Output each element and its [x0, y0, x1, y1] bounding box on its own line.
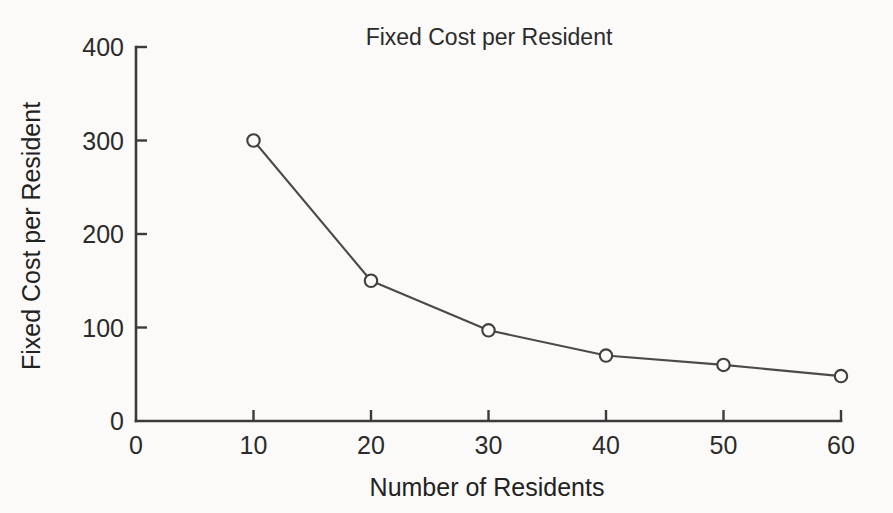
- data-point-marker: [247, 134, 259, 146]
- y-tick-label: 400: [82, 33, 124, 61]
- y-tick-label: 200: [82, 220, 124, 248]
- data-point-marker: [482, 324, 494, 336]
- y-axis-title: Fixed Cost per Resident: [17, 102, 45, 370]
- data-point-marker: [365, 275, 377, 287]
- x-tick-label: 0: [129, 431, 143, 459]
- y-tick-label: 300: [82, 127, 124, 155]
- x-axis-title: Number of Residents: [370, 473, 605, 501]
- x-tick-label: 50: [710, 431, 738, 459]
- y-tick-label: 100: [82, 314, 124, 342]
- x-tick-label: 10: [240, 431, 268, 459]
- chart-canvas: Fixed Cost per Resident 0100200300400 01…: [0, 0, 893, 513]
- chart-title: Fixed Cost per Resident: [366, 24, 613, 50]
- data-point-marker: [600, 349, 612, 361]
- y-tick-label: 0: [110, 407, 124, 435]
- data-point-marker: [717, 359, 729, 371]
- x-tick-label: 60: [827, 431, 855, 459]
- chart-figure: Fixed Cost per Resident 0100200300400 01…: [0, 0, 893, 513]
- x-tick-label: 20: [357, 431, 385, 459]
- data-point-marker: [835, 370, 847, 382]
- x-tick-label: 30: [475, 431, 503, 459]
- x-tick-label: 40: [592, 431, 620, 459]
